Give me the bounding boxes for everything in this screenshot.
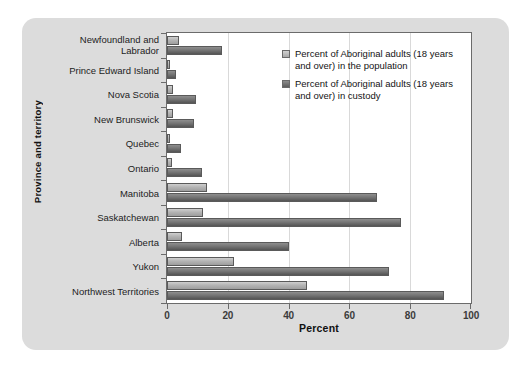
bar-custody [167,70,176,79]
x-tick-label-100: 100 [463,310,479,321]
y-tick [161,33,167,34]
x-tick-label-20: 20 [222,310,233,321]
legend-label-custody: Percent of Aboriginal adults (18 years a… [295,78,453,101]
y-tick [161,303,167,304]
y-axis-label-new-brunswick: New Brunswick [94,113,159,124]
y-axis-label-yukon: Yukon [133,261,159,272]
bar-population [167,85,173,94]
x-axis-title: Percent [166,322,472,334]
bar-population [167,257,234,266]
y-axis-label-quebec: Quebec [126,138,159,149]
y-tick [161,131,167,132]
bar-population [167,134,170,143]
x-tick-80 [410,303,411,309]
bar-custody [167,95,196,104]
bar-custody [167,119,194,128]
x-tick-100 [470,303,471,309]
x-tick-60 [349,303,350,309]
y-axis-label-saskatchewan: Saskatchewan [97,212,159,223]
x-tick-40 [289,303,290,309]
legend-swatch-population-icon [282,50,290,58]
bar-population [167,183,207,192]
y-tick [161,229,167,230]
chart-row: Yukon [167,254,471,279]
legend-item-custody: Percent of Aboriginal adults (18 years a… [282,78,468,101]
legend-item-population: Percent of Aboriginal adults (18 years a… [282,48,468,71]
y-tick [161,58,167,59]
chart-row: New Brunswick [167,107,471,132]
x-tick-0 [167,303,168,309]
bar-custody [167,193,377,202]
y-tick [161,82,167,83]
bar-custody [167,291,444,300]
y-axis-label-newfoundland-and-labrador: Newfoundland and Labrador [54,34,159,56]
y-tick [161,254,167,255]
bar-custody [167,168,202,177]
chart-row: Saskatchewan [167,205,471,230]
gridline-x-100 [471,33,472,303]
y-axis-label-northwest-territories: Northwest Territories [72,285,159,296]
chart-row: Ontario [167,156,471,181]
y-axis-label-manitoba: Manitoba [120,187,159,198]
bar-custody [167,218,401,227]
bar-custody [167,267,389,276]
y-axis-label-nova-scotia: Nova Scotia [108,89,159,100]
x-tick-20 [228,303,229,309]
bar-custody [167,46,222,55]
bar-population [167,232,182,241]
chart-row: Quebec [167,131,471,156]
y-tick [161,156,167,157]
y-tick [161,107,167,108]
y-axis-label-ontario: Ontario [128,162,159,173]
legend-label-population: Percent of Aboriginal adults (18 years a… [295,48,453,71]
bar-population [167,281,307,290]
x-tick-label-0: 0 [164,310,169,321]
bar-population [167,36,179,45]
chart-row: Manitoba [167,180,471,205]
y-tick [161,205,167,206]
bar-population [167,109,173,118]
x-tick-label-60: 60 [344,310,355,321]
bar-population [167,208,203,217]
bar-custody [167,144,181,153]
y-tick [161,180,167,181]
bar-population [167,60,170,69]
chart-row: Northwest Territories [167,278,471,303]
chart-figure: Province and territory 020406080100Newfo… [0,0,529,366]
legend-swatch-custody-icon [282,80,290,88]
y-tick [161,278,167,279]
x-tick-label-40: 40 [283,310,294,321]
bar-custody [167,242,289,251]
y-axis-label-prince-edward-island: Prince Edward Island [69,64,159,75]
y-axis-title: Province and territory [32,100,46,203]
bar-population [167,158,172,167]
chart-legend: Percent of Aboriginal adults (18 years a… [282,48,468,108]
y-axis-label-alberta: Alberta [129,236,159,247]
chart-row: Alberta [167,229,471,254]
x-tick-label-80: 80 [405,310,416,321]
